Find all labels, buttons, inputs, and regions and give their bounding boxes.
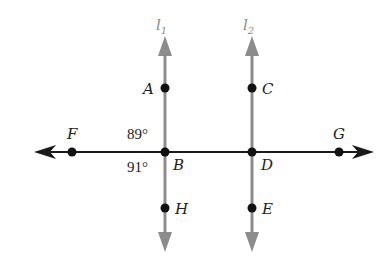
arrow-up-icon: [158, 36, 172, 56]
line-l1-label: l1: [156, 16, 167, 36]
label-a: A: [141, 80, 154, 98]
line-l1: [158, 36, 172, 252]
angle-upper-label: 89°: [127, 126, 148, 142]
label-f: F: [66, 125, 78, 143]
point-a: [161, 84, 170, 93]
point-e: [248, 204, 257, 213]
label-b: B: [172, 156, 184, 174]
angle-lower-label: 91°: [127, 159, 148, 175]
point-b: [161, 148, 170, 157]
arrow-down-icon: [158, 232, 172, 252]
point-g: [335, 148, 344, 157]
geometry-diagram: l1 l2 A C F B D G H E 89° 91°: [0, 0, 390, 275]
line-l2: [245, 36, 259, 252]
label-d: D: [260, 156, 273, 174]
label-h: H: [174, 200, 189, 218]
point-c: [248, 84, 257, 93]
point-f: [68, 148, 77, 157]
label-e: E: [261, 200, 273, 218]
label-c: C: [262, 80, 274, 98]
line-l2-label: l2: [243, 16, 254, 36]
label-g: G: [333, 125, 345, 143]
arrow-down-icon: [245, 232, 259, 252]
point-d: [248, 148, 257, 157]
point-h: [161, 204, 170, 213]
arrow-up-icon: [245, 36, 259, 56]
line-fg: [34, 145, 374, 159]
